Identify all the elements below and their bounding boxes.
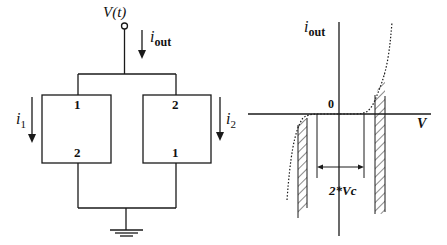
i1-label: i1 <box>16 110 26 130</box>
circuit <box>28 23 224 236</box>
diagram: V(t) iout i1 i2 1 2 2 1 iout 0 V 2*Vc <box>0 0 447 245</box>
left-bottom-terminal: 2 <box>74 145 81 161</box>
right-bottom-terminal: 1 <box>172 145 179 161</box>
x-axis-label: V <box>417 116 426 132</box>
source-terminal-icon <box>122 23 128 29</box>
right-hatched-region <box>375 72 385 215</box>
gap-arrow-icon <box>317 165 364 170</box>
diagram-canvas <box>0 0 447 245</box>
gap-label: 2*Vc <box>329 183 356 199</box>
i2-arrow-icon <box>216 97 224 141</box>
i1-arrow-icon <box>28 97 36 143</box>
ground-icon <box>110 230 143 236</box>
right-top-terminal: 2 <box>172 97 179 113</box>
y-axis-label: iout <box>304 18 325 40</box>
left-top-terminal: 1 <box>74 97 81 113</box>
iout-arrow-icon <box>138 30 146 59</box>
origin-label: 0 <box>328 97 334 112</box>
iout-label: iout <box>150 28 171 50</box>
iv-graph <box>248 22 431 236</box>
source-label: V(t) <box>103 4 126 21</box>
i2-label: i2 <box>226 110 236 130</box>
left-hatched-region <box>298 118 307 216</box>
